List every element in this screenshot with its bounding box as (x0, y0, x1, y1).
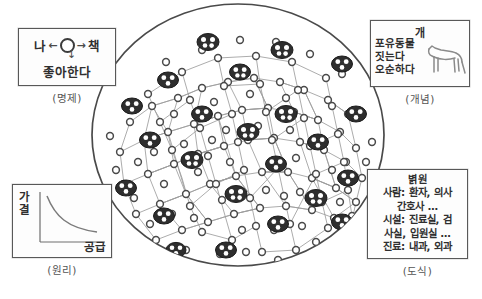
principle-x-axis-label: 공급 (84, 238, 106, 254)
knowledge-network-ellipse (90, 2, 386, 270)
proposition-caption: (명제) (18, 90, 116, 105)
concept-caption: (개념) (370, 91, 470, 106)
proposition-box: 나 ← → 책 ↓ 좋아한다 (18, 28, 116, 86)
schema-caption: (도식) (367, 263, 468, 278)
concept-attribute: 짓는다 (375, 50, 429, 63)
schema-line-list: 볅원 사람: 환자, 의사 간호사 … 시설: 진료실, 검 사실, 입원실 …… (368, 173, 467, 253)
schema-box: 볅원 사람: 환자, 의사 간호사 … 시설: 진료실, 검 사실, 입원실 …… (367, 169, 468, 259)
faint-bottom-text (60, 289, 390, 298)
proposition-predicate: 좋아한다 (19, 62, 115, 81)
schema-title: 볅원 (368, 173, 467, 186)
proposition-left-word: 나 (34, 36, 46, 55)
proposition-right-word: 책 (88, 36, 100, 55)
concept-box: 개 포유동물 짓는다 오순하다 (370, 20, 470, 87)
principle-y-axis-label: 가 (17, 191, 32, 203)
principle-y-axis-label-2: 결 (17, 204, 32, 216)
schema-line: 간호사 … (368, 200, 467, 213)
schema-line: 사람: 환자, 의사 (368, 186, 467, 199)
schema-line: 사실, 입원실 … (368, 227, 467, 240)
schema-line: 진료: 내과, 외과 (368, 240, 467, 253)
dog-silhouette-icon (425, 40, 467, 80)
diagram-canvas: 나 ← → 책 ↓ 좋아한다 (명제) 가 결 공급 (원리) 개 포유동물 짓… (0, 0, 482, 299)
principle-box: 가 결 공급 (12, 184, 112, 258)
arrow-down-icon: ↓ (67, 49, 76, 60)
concept-attribute-list: 포유동물 짓는다 오순하다 (375, 37, 429, 76)
concept-attribute: 오순하다 (375, 63, 429, 76)
schema-line: 시설: 진료실, 검 (368, 213, 467, 226)
arrow-left-icon: ← (48, 40, 57, 51)
principle-caption: (원리) (12, 262, 112, 277)
arrow-right-icon: → (77, 40, 86, 51)
concept-attribute: 포유동물 (375, 37, 429, 50)
